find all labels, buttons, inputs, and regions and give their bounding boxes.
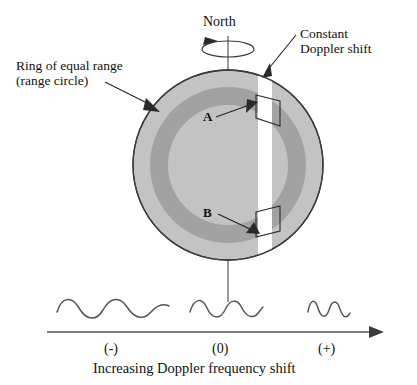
point-b-label: B — [203, 206, 212, 221]
north-label: North — [203, 14, 236, 30]
point-a-label: A — [203, 110, 212, 125]
axis-tick-zero-label: (0) — [212, 341, 228, 357]
rotation-arrow-icon — [203, 37, 218, 45]
axis-tick-positive-label: (+) — [318, 341, 335, 357]
axis-tick-negative-label: (-) — [104, 341, 118, 357]
waveform-positive — [308, 301, 350, 317]
axis-right-arrow-icon — [369, 326, 384, 338]
waveform-negative — [57, 299, 169, 318]
doppler-range-diagram: North Ring of equal range (range circle)… — [0, 0, 417, 385]
leader-arrowhead-constant-icon — [262, 63, 272, 78]
waveform-zero — [190, 301, 263, 317]
constant-doppler-band-group — [258, 60, 272, 272]
constant-doppler-shift-label: Constant Doppler shift — [300, 26, 372, 56]
ring-of-equal-range-label: Ring of equal range (range circle) — [16, 58, 123, 88]
figure-caption: Increasing Doppler frequency shift — [93, 360, 296, 376]
constant-doppler-band — [258, 60, 272, 272]
